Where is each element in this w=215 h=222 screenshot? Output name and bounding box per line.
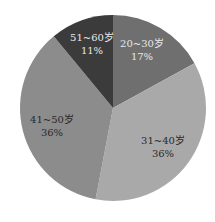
pie-chart: 20~30岁 17% 31~40岁 36% 41~50岁 36% 51~60岁 … xyxy=(0,0,215,222)
slice-label-pct: 11% xyxy=(81,45,103,56)
slice-label-name: 41~50岁 xyxy=(30,113,74,125)
slice-label-name: 51~60岁 xyxy=(70,31,114,43)
slice-label-pct: 36% xyxy=(152,148,174,159)
slice-label-pct: 17% xyxy=(131,51,153,62)
slice-label-name: 20~30岁 xyxy=(120,37,164,49)
slice-label-name: 31~40岁 xyxy=(141,134,185,146)
slice-label-pct: 36% xyxy=(41,127,63,138)
